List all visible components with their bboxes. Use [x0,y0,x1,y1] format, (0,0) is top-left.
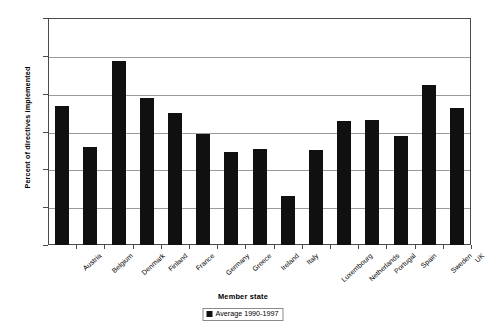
x-label-germany: Germany [224,252,251,277]
x-tick-mark-12 [415,245,416,249]
bar-portugal [365,120,379,245]
x-tick-mark-4 [189,245,190,249]
x-label-austria: Austria [82,252,104,273]
chart-legend: Average 1990-1997 [202,308,283,321]
x-tick-mark-9 [330,245,331,249]
y-tick-mark-70 [43,245,48,246]
y-axis-title: Percent of directives implemented [23,33,32,223]
bar-ireland [253,149,267,245]
x-tick-mark-3 [161,245,162,249]
x-tick-mark-5 [217,245,218,249]
x-tick-mark-10 [358,245,359,249]
x-label-italy: Italy [305,252,320,267]
x-label-greece: Greece [251,252,273,273]
bar-germany [196,134,210,245]
bar-uk [450,108,464,245]
bars-group [48,18,471,245]
x-label-belgium: Belgium [111,252,135,275]
bar-chart: Percent of directives implemented 100959… [0,0,486,333]
legend-label-average: Average 1990-1997 [215,310,278,318]
bar-denmark [112,61,126,245]
bar-austria [55,106,69,245]
x-tick-mark-14 [471,245,472,249]
x-tick-mark-0 [76,245,77,249]
x-label-denmark: Denmark [140,252,166,277]
bar-italy [281,196,295,245]
bar-spain [394,136,408,245]
x-axis-title: Member state [0,292,486,301]
legend-swatch-average [206,311,212,317]
x-label-uk: UK [473,252,486,264]
bar-netherlands [337,121,351,245]
x-label-sweden: Sweden [449,252,473,275]
x-tick-mark-6 [245,245,246,249]
x-label-finland: Finland [167,252,189,273]
x-tick-mark-13 [443,245,444,249]
x-label-ireland: Ireland [279,252,300,272]
x-label-france: France [194,252,216,273]
x-tick-mark-8 [302,245,303,249]
bar-finland [140,98,154,245]
x-tick-mark-2 [133,245,134,249]
x-tick-mark-11 [386,245,387,249]
bar-greece [224,152,238,245]
bar-sweden [422,85,436,245]
x-label-spain: Spain [419,252,438,270]
bar-belgium [83,147,97,245]
x-tick-mark-1 [104,245,105,249]
bar-france [168,113,182,245]
bar-luxembourg [309,150,323,245]
x-tick-mark-7 [274,245,275,249]
